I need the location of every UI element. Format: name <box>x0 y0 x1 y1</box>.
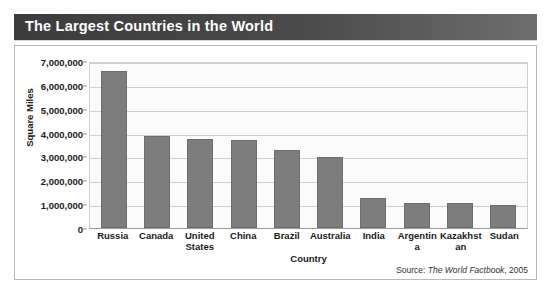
y-axis-tick-label: 6,000,000 <box>41 80 83 91</box>
bar <box>360 198 386 228</box>
y-axis-tick-label: 1,000,000 <box>41 200 83 211</box>
bar <box>447 203 473 228</box>
x-axis-tick-label: Sudan <box>483 231 525 242</box>
y-axis-tick-mark <box>83 85 87 86</box>
x-axis-tick-label: Australia <box>309 231 351 242</box>
y-axis-tick-mark <box>83 181 87 182</box>
bar <box>490 205 516 228</box>
x-axis-tick-label: Brazil <box>266 231 308 242</box>
bar <box>187 139 213 228</box>
source-prefix: Source: <box>396 265 425 275</box>
y-axis-tick-mark <box>83 229 87 230</box>
y-axis-tick-mark <box>83 157 87 158</box>
bar <box>404 203 430 228</box>
x-axis-tick-label: Argentina <box>396 231 438 252</box>
y-axis-tick-mark <box>83 133 87 134</box>
chart-title-bar: The Largest Countries in the World <box>14 14 537 40</box>
y-axis-tick-mark <box>83 62 87 63</box>
plot-area <box>89 62 528 229</box>
y-axis-tick-label: 5,000,000 <box>41 104 83 115</box>
bar-series <box>90 63 527 228</box>
bar <box>144 136 170 228</box>
x-axis-tick-label: India <box>353 231 395 242</box>
x-axis-tick-label: Canada <box>135 231 177 242</box>
x-axis-tick-label: Kazakhstan <box>440 231 482 252</box>
x-axis-tick-label: Russia <box>92 231 134 242</box>
bar <box>101 71 127 228</box>
x-axis-tick-label: China <box>222 231 264 242</box>
y-axis-tick-mark <box>83 109 87 110</box>
x-axis-title: Country <box>89 253 528 264</box>
y-axis-ticks: 7,000,0006,000,0005,000,0004,000,0003,00… <box>15 62 87 229</box>
y-axis-tick-label: 4,000,000 <box>41 128 83 139</box>
source-work: The World Factbook <box>428 265 505 275</box>
x-axis-tick-label: United States <box>179 231 221 252</box>
chart-page: The Largest Countries in the World Squar… <box>0 0 552 293</box>
y-axis-tick-label: 3,000,000 <box>41 152 83 163</box>
page-title: The Largest Countries in the World <box>25 18 273 34</box>
bar <box>317 157 343 228</box>
y-axis-tick-label: 2,000,000 <box>41 176 83 187</box>
y-axis-tick-label: 7,000,000 <box>41 57 83 68</box>
source-year: , 2005 <box>504 265 528 275</box>
chart-panel: Square Miles 7,000,0006,000,0005,000,000… <box>14 45 537 280</box>
bar <box>231 140 257 228</box>
bar <box>274 150 300 228</box>
y-axis-tick-mark <box>83 205 87 206</box>
source-note: Source: The World Factbook, 2005 <box>396 265 528 275</box>
